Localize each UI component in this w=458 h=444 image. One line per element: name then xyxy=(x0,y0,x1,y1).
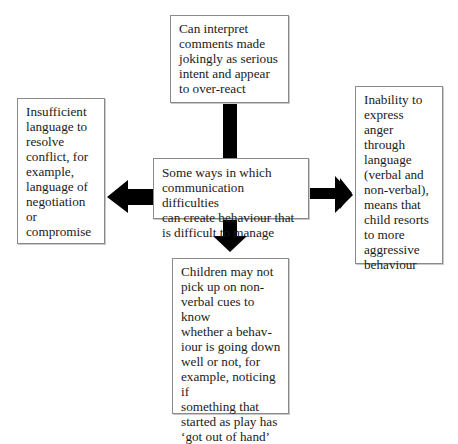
node-bottom: Children may not pick up on non- verbal … xyxy=(172,258,289,414)
arrow-right-head xyxy=(335,176,353,213)
node-top: Can interpret comments made jokingly as … xyxy=(170,15,289,103)
node-center-text: Some ways in which communication difficu… xyxy=(162,165,302,240)
connector-top xyxy=(223,102,237,159)
node-left-text: Insufficient language to resolve conflic… xyxy=(26,104,98,239)
node-center: Some ways in which communication difficu… xyxy=(153,158,309,219)
node-bottom-text: Children may not pick up on non- verbal … xyxy=(181,264,282,444)
arrow-left xyxy=(107,180,153,213)
node-right: Inability to express anger through langu… xyxy=(355,86,443,264)
node-top-text: Can interpret comments made jokingly as … xyxy=(179,21,282,96)
node-right-text: Inability to express anger through langu… xyxy=(364,92,436,272)
node-left: Insufficient language to resolve conflic… xyxy=(17,98,105,244)
